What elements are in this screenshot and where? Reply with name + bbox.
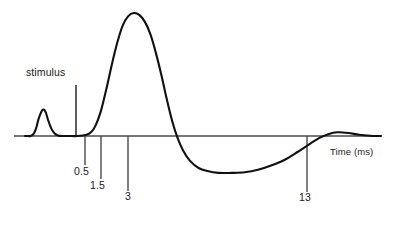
x-tick-label-3: 3 bbox=[125, 191, 131, 202]
action-potential-trace bbox=[25, 13, 381, 173]
waveform-plot bbox=[0, 0, 393, 225]
waveform-figure: stimulus 0.5 1.5 3 13 Time (ms) bbox=[0, 0, 393, 225]
x-axis-title: Time (ms) bbox=[330, 147, 373, 157]
x-tick-label-1.5: 1.5 bbox=[90, 180, 105, 191]
stimulus-label: stimulus bbox=[26, 67, 65, 78]
x-tick-label-0.5: 0.5 bbox=[74, 166, 89, 177]
x-tick-label-13: 13 bbox=[299, 192, 311, 203]
